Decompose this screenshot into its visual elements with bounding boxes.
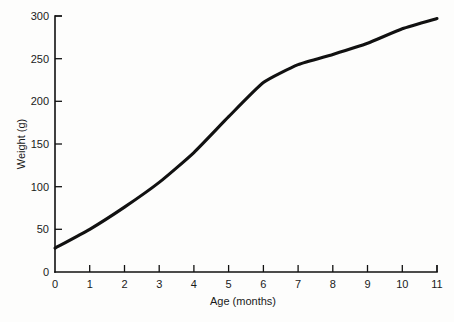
chart-plot-area: 300 250 200 150 100 50 0 0 1 2 3 4 5 6 7… [0,0,454,322]
y-tick-label-250: 250 [31,53,49,65]
weight-growth-curve [55,19,437,249]
x-tick-label-9: 9 [364,278,370,290]
x-tick-label-0: 0 [52,278,58,290]
x-tick-label-10: 10 [396,278,408,290]
line-chart: 300 250 200 150 100 50 0 0 1 2 3 4 5 6 7… [0,0,454,322]
x-tick-label-1: 1 [87,278,93,290]
y-tick-label-200: 200 [31,95,49,107]
y-axis-ticks [55,16,62,229]
y-tick-label-0: 0 [43,266,49,278]
x-tick-label-6: 6 [260,278,266,290]
x-tick-label-7: 7 [295,278,301,290]
y-tick-label-150: 150 [31,138,49,150]
x-tick-label-5: 5 [226,278,232,290]
y-axis-tick-labels: 300 250 200 150 100 50 0 [31,10,49,278]
x-tick-label-3: 3 [156,278,162,290]
y-axis-title: Weight (g) [15,119,27,170]
x-axis-ticks [90,265,437,272]
x-tick-label-8: 8 [330,278,336,290]
y-tick-label-100: 100 [31,181,49,193]
x-tick-label-2: 2 [121,278,127,290]
y-tick-label-300: 300 [31,10,49,22]
x-axis-tick-labels: 0 1 2 3 4 5 6 7 8 9 10 11 [52,278,443,290]
x-axis-title: Age (months) [210,295,276,307]
x-tick-label-11: 11 [431,278,442,290]
y-tick-label-50: 50 [37,223,49,235]
x-tick-label-4: 4 [191,278,197,290]
